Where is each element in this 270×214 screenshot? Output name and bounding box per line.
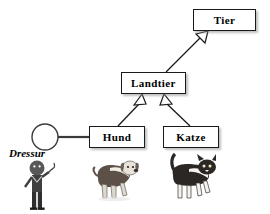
cat-figure-icon: [172, 154, 216, 198]
generalization-hund-to-landtier: [118, 94, 146, 126]
diagram-canvas: [0, 0, 270, 214]
generalization-line: [166, 36, 202, 72]
class-box-tier[interactable]: Tier: [193, 9, 256, 31]
class-name-tier: Tier: [214, 15, 236, 26]
cat-tail: [172, 154, 177, 174]
interface-label-dressur: Dressur: [9, 147, 45, 159]
generalization-landtier-to-tier: [166, 31, 208, 72]
uml-class-diagram: Tier Landtier Hund Katze Dressur: [0, 0, 270, 214]
class-box-landtier[interactable]: Landtier: [121, 72, 186, 94]
class-name-hund: Hund: [103, 132, 132, 143]
generalization-line: [118, 104, 139, 126]
generalization-line: [167, 104, 190, 126]
class-name-katze: Katze: [176, 132, 205, 143]
hollow-triangle-arrowhead: [160, 94, 172, 105]
dog-figure-icon: [94, 161, 139, 201]
class-box-katze[interactable]: Katze: [163, 126, 219, 148]
hollow-triangle-arrowhead: [196, 31, 208, 43]
whip-icon: [49, 163, 55, 172]
generalization-katze-to-landtier: [160, 94, 190, 126]
class-name-landtier: Landtier: [131, 78, 176, 89]
trainer-figure-icon: [25, 161, 55, 210]
class-box-hund[interactable]: Hund: [89, 126, 145, 148]
hollow-triangle-arrowhead: [134, 94, 146, 105]
